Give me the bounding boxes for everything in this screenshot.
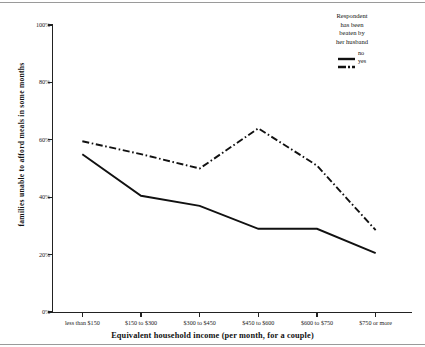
figure: families unable to afford meals in some … bbox=[0, 0, 425, 347]
legend-item-no: no bbox=[338, 49, 366, 57]
legend-label-yes: yes bbox=[358, 57, 366, 65]
legend-title-line: Respondent bbox=[296, 12, 408, 21]
series-line-no bbox=[82, 154, 375, 253]
legend-title-line: has been bbox=[296, 21, 408, 30]
legend-swatch-yes bbox=[338, 57, 355, 65]
legend-swatch-no bbox=[338, 49, 355, 57]
legend-title-line: her husband bbox=[296, 38, 408, 47]
legend-title-line: beaten by bbox=[296, 29, 408, 38]
legend-title: Respondenthas beenbeaten byher husband bbox=[296, 12, 408, 46]
legend: Respondenthas beenbeaten byher husband n… bbox=[296, 12, 408, 75]
legend-label-no: no bbox=[358, 49, 364, 57]
series-line-yes bbox=[82, 128, 375, 230]
legend-item-yes: yes bbox=[338, 57, 366, 65]
legend-entries: noyes bbox=[338, 49, 366, 65]
